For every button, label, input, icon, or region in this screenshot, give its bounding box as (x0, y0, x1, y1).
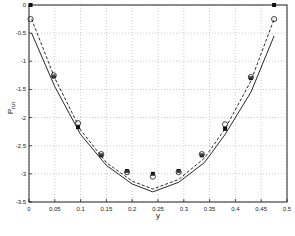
open-marker (150, 174, 155, 179)
x-tick-label: 0.5 (283, 206, 292, 212)
x-tick-label: 0.45 (255, 206, 267, 212)
open-marker (99, 152, 104, 157)
open-marker (272, 16, 277, 21)
x-tick-label: 0 (27, 206, 31, 212)
x-tick-label: 0.3 (180, 206, 189, 212)
filled-marker (29, 3, 33, 7)
filled-marker (272, 3, 276, 7)
open-marker (176, 170, 181, 175)
x-tick-label: 0.2 (128, 206, 137, 212)
data-series (28, 3, 277, 192)
open-marker (124, 170, 129, 175)
x-tick-label: 0.15 (101, 206, 113, 212)
open-marker (75, 121, 80, 126)
y-tick-label: -1 (21, 58, 27, 64)
x-axis-label: y (156, 211, 160, 220)
solid-curve (32, 33, 275, 192)
y-tick-label: -1.5 (16, 86, 27, 92)
x-tick-label: 0.35 (204, 206, 216, 212)
svg-text:Pn,n: Pn,n (6, 102, 16, 115)
y-tick-label: -3.5 (16, 199, 27, 205)
y-axis-label: Pn,n (6, 102, 16, 115)
x-tick-label: 0.4 (231, 206, 240, 212)
open-marker (248, 74, 253, 79)
dashed-curve (32, 19, 275, 189)
chart: 00.050.10.150.20.250.30.350.40.450.50-0.… (0, 0, 295, 236)
open-marker (51, 73, 56, 78)
open-marker (222, 122, 227, 127)
open-marker (28, 16, 33, 21)
y-tick-label: -2 (21, 115, 27, 121)
axis-ticks: 00.050.10.150.20.250.30.350.40.450.50-0.… (16, 2, 292, 212)
open-marker (199, 152, 204, 157)
y-tick-label: -2.5 (16, 143, 27, 149)
y-tick-label: 0 (23, 2, 27, 8)
x-tick-label: 0.1 (76, 206, 85, 212)
filled-marker (223, 127, 227, 131)
y-tick-label: -0.5 (16, 30, 27, 36)
y-tick-label: -3 (21, 171, 27, 177)
x-tick-label: 0.05 (49, 206, 61, 212)
